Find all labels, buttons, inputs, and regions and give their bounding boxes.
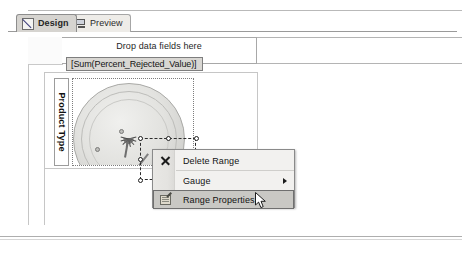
monitor-icon [76, 19, 86, 29]
resize-handle-n[interactable] [166, 136, 171, 141]
top-divider [28, 10, 462, 11]
bottom-divider-shadow [0, 239, 462, 240]
resize-handle-sw[interactable] [138, 178, 143, 183]
canvas-guide-line-left [28, 64, 29, 225]
resize-handle-w[interactable] [138, 157, 143, 162]
design-icon [22, 18, 34, 30]
chevron-right-icon [283, 178, 287, 184]
matrix-corner-cell[interactable] [28, 37, 63, 65]
resize-handle-nw[interactable] [138, 136, 143, 141]
row-group-cell[interactable]: Product Type [54, 78, 69, 166]
resize-handle-ne[interactable] [194, 136, 199, 141]
row-group-label: Product Type [57, 92, 67, 151]
context-menu[interactable]: Delete Range Gauge Range Properties... [152, 149, 295, 208]
column-header-band [257, 37, 462, 64]
tab-design[interactable]: Design [16, 14, 77, 32]
bottom-divider [0, 236, 462, 237]
data-field-chip-label: [Sum(Percent_Rejected_Value)] [71, 59, 197, 69]
data-field-chip[interactable]: [Sum(Percent_Rejected_Value)] [66, 57, 203, 71]
close-x-icon [154, 156, 176, 165]
menu-item-range-properties[interactable]: Range Properties... [153, 190, 294, 209]
menu-item-gauge[interactable]: Gauge [154, 171, 294, 190]
menu-item-delete-range[interactable]: Delete Range [154, 151, 294, 170]
view-tabstrip: Design Preview [8, 14, 462, 33]
drop-zone-label: Drop data fields here [116, 41, 202, 51]
properties-icon [154, 195, 176, 205]
gauge-marker-pin [95, 147, 100, 152]
gauge-marker-pin [119, 129, 124, 134]
mouse-cursor [255, 192, 268, 210]
menu-item-gauge-label: Gauge [176, 176, 211, 186]
tab-preview[interactable]: Preview [70, 14, 131, 32]
menu-item-delete-range-label: Delete Range [176, 156, 239, 166]
tab-preview-label: Preview [90, 19, 123, 28]
body-guide-line-left [44, 169, 45, 225]
menu-item-range-properties-label: Range Properties... [176, 195, 262, 205]
tab-design-label: Design [38, 19, 69, 28]
